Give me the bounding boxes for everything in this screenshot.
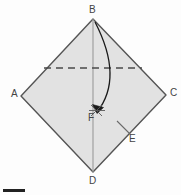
- figure-canvas: B A C D E F: [0, 0, 181, 195]
- point-label-e: E: [129, 134, 136, 144]
- footer-rule: [3, 189, 25, 192]
- point-label-f: F: [88, 113, 94, 123]
- vertex-label-d: D: [89, 176, 96, 186]
- vertex-label-b: B: [89, 5, 96, 15]
- vertex-label-a: A: [11, 89, 18, 99]
- geometry-figure-svg: [0, 0, 181, 195]
- vertex-label-c: C: [170, 88, 177, 98]
